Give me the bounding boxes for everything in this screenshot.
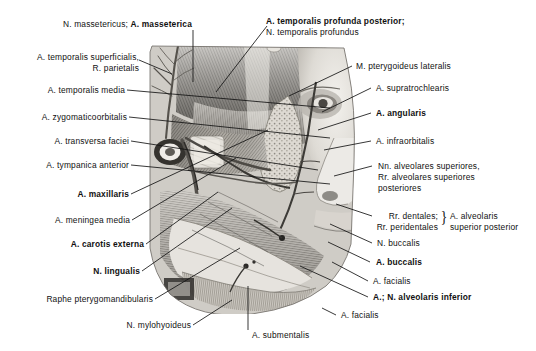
- label-lingualis: N. lingualis: [0, 266, 140, 277]
- label-zygomaticoorbitalis: A. zygomaticoorbitalis: [0, 112, 127, 123]
- dissection-illustration: [148, 42, 358, 314]
- label-infraorbitalis: A. infraorbitalis: [376, 136, 434, 147]
- label-massetericus: N. massetericus; A. masseterica: [40, 19, 192, 30]
- label-temporalis-media: A. temporalis media: [0, 85, 125, 96]
- label-temporalis-profunda-posterior: A. temporalis profunda posterior;: [266, 16, 405, 27]
- label-angularis: A. angularis: [376, 108, 426, 119]
- label-meningea-media: A. meningea media: [0, 215, 130, 226]
- head-region: [148, 42, 358, 314]
- label-supratrochlearis: A. supratrochlearis: [376, 83, 449, 94]
- label-alveolaris-superior-posterior-2: superior posterior: [450, 222, 518, 233]
- label-transversa-faciei: A. transversa faciei: [0, 136, 129, 147]
- label-mylohyoideus: N. mylohyoideus: [60, 320, 191, 331]
- label-alveolares-superiores-1: Nn. alveolares superiores,: [378, 161, 480, 172]
- label-buccalis-nerve: N. buccalis: [377, 238, 420, 249]
- label-facialis-upper: A. facialis: [373, 276, 411, 287]
- label-carotis-externa: A. carotis externa: [0, 239, 144, 250]
- label-dentales: Rr. dentales;: [338, 211, 438, 222]
- label-peridentales: Rr. peridentales: [338, 222, 438, 233]
- dental-group-brace: }: [441, 209, 448, 226]
- anatomical-figure-plate: N. massetericus; A. masseterica A. tempo…: [0, 0, 536, 351]
- label-temporalis-superficialis: A. temporalis superficialis,: [0, 52, 139, 63]
- label-massetericus-normal: N. massetericus;: [63, 19, 128, 29]
- label-facialis-lower: A. facialis: [341, 310, 379, 321]
- label-alveolares-superiores-3: posteriores: [378, 183, 421, 194]
- label-alveolaris-inferior: A.; N. alveolaris inferior: [373, 292, 471, 303]
- label-maxillaris: A. maxillaris: [0, 189, 129, 200]
- label-alveolares-superiores-2: Rr. alveolares superiores: [378, 172, 475, 183]
- label-r-parietalis: R. parietalis: [0, 63, 139, 74]
- label-tympanica-anterior: A. tympanica anterior: [0, 160, 129, 171]
- label-submentalis: A. submentalis: [252, 330, 309, 341]
- label-temporalis-profundus: N. temporalis profundus: [266, 27, 359, 38]
- label-buccalis-artery: A. buccalis: [376, 257, 422, 268]
- label-massetericus-bold: A. masseterica: [131, 19, 192, 29]
- label-alveolaris-superior-posterior-1: A. alveolaris: [450, 211, 498, 222]
- illustration-canvas: [148, 42, 358, 314]
- label-pterygoideus-lateralis: M. pterygoideus lateralis: [356, 61, 451, 72]
- label-raphe-pterygomandibularis: Raphe pterygomandibularis: [0, 294, 153, 305]
